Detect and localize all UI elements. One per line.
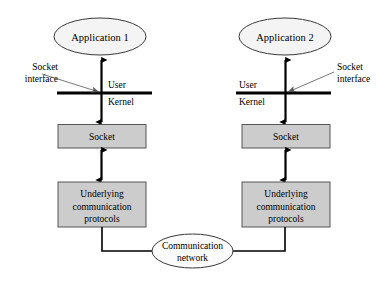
- right-protocols-label-line3: protocols: [268, 214, 304, 224]
- right-socket-interface-leader: [288, 72, 334, 92]
- right-protocols-label-line1: Underlying: [264, 189, 308, 199]
- left-protocols-label-line1: Underlying: [80, 189, 124, 199]
- left-user-label: User: [108, 80, 127, 90]
- right-user-label: User: [239, 80, 258, 90]
- right-socket-label: Socket: [273, 132, 299, 142]
- application-2-label: Application 2: [256, 32, 313, 43]
- application-1-label: Application 1: [71, 32, 128, 43]
- right-protocols-label-line2: communication: [256, 202, 315, 212]
- right-socket-interface-label-line2: interface: [337, 74, 370, 84]
- communication-network-label-line2: network: [177, 253, 208, 263]
- right-socket-interface-label-line1: Socket: [337, 62, 363, 72]
- diagram-canvas: Application 1 User Kernel Socket interfa…: [0, 0, 385, 286]
- left-socket-label: Socket: [89, 132, 115, 142]
- left-protocols-label-line2: communication: [72, 202, 131, 212]
- left-socket-interface-label-line1: Socket: [32, 62, 58, 72]
- socket-architecture-diagram: Application 1 User Kernel Socket interfa…: [0, 0, 385, 286]
- left-network-link: [102, 227, 154, 251]
- communication-network-label-line1: Communication: [162, 241, 223, 251]
- left-kernel-label: Kernel: [108, 97, 134, 107]
- right-network-link: [231, 227, 285, 251]
- right-kernel-label: Kernel: [239, 97, 265, 107]
- left-socket-interface-label-line2: interface: [25, 74, 58, 84]
- left-protocols-label-line3: protocols: [84, 214, 120, 224]
